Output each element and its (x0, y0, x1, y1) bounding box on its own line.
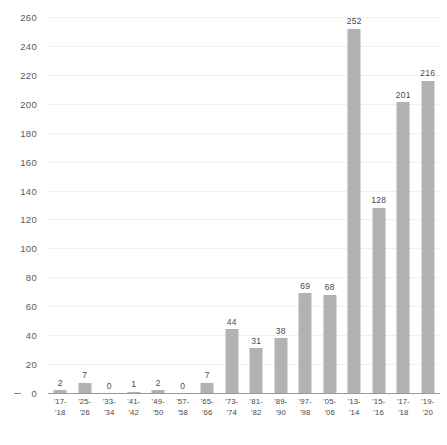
y-axis: 020406080100120140160180200220240260 (0, 0, 48, 445)
y-axis-tick-label: 0 (31, 388, 37, 399)
x-axis-tick-line-2: '74 (220, 407, 245, 418)
y-axis-tick-label: 40 (26, 330, 37, 341)
y-axis-tick-label: 220 (20, 69, 37, 80)
x-axis-tick-line-1: '15- (367, 396, 392, 407)
y-axis-tick-label: 240 (20, 40, 37, 51)
x-axis-tick-line-1: '05- (318, 396, 343, 407)
y-axis-tick-label: 20 (26, 359, 37, 370)
bar[interactable] (323, 295, 336, 393)
bar[interactable] (225, 329, 238, 393)
bar-value-label: 0 (107, 381, 112, 391)
bar-group: 2 (146, 17, 171, 393)
x-axis-tick-line-1: '25- (73, 396, 98, 407)
bar-group: 0 (97, 17, 122, 393)
bar-group: 7 (73, 17, 98, 393)
x-axis-tick-line-2: '58 (171, 407, 196, 418)
bar-group: 0 (171, 17, 196, 393)
bar-value-label: 252 (347, 16, 362, 26)
y-axis-tick-label: 200 (20, 98, 37, 109)
bar[interactable] (421, 81, 434, 393)
x-axis-tick-line-2: '26 (73, 407, 98, 418)
bar-value-label: 44 (227, 317, 237, 327)
bar-group: 44 (220, 17, 245, 393)
x-axis-tick-line-1: '89- (269, 396, 294, 407)
x-axis-tick-label: '49-'50 (146, 396, 171, 418)
x-axis-tick-label: '73-'74 (220, 396, 245, 418)
x-axis-tick-label: '33-'34 (97, 396, 122, 418)
bar-value-label: 68 (325, 282, 335, 292)
x-axis-tick-label: '19-'20 (416, 396, 441, 418)
bar-group: 201 (391, 17, 416, 393)
bar-value-label: 201 (396, 90, 411, 100)
bar[interactable] (372, 208, 385, 393)
x-axis-tick-line-2: '34 (97, 407, 122, 418)
x-axis-tick-line-1: '41- (122, 396, 147, 407)
y-axis-tick-label: 260 (20, 12, 37, 23)
x-axis-tick-line-2: '18 (48, 407, 73, 418)
bar-value-label: 7 (205, 370, 210, 380)
x-axis-tick-line-1: '19- (416, 396, 441, 407)
x-axis-tick-label: '15-'16 (367, 396, 392, 418)
x-axis-tick-label: '97-'98 (293, 396, 318, 418)
x-axis-tick-label: '57-'58 (171, 396, 196, 418)
x-axis-baseline (48, 393, 440, 394)
x-axis-tick-line-2: '14 (342, 407, 367, 418)
bar[interactable] (348, 29, 361, 393)
x-axis-tick-label: '17-'18 (391, 396, 416, 418)
x-axis-tick-line-2: '66 (195, 407, 220, 418)
bar[interactable] (299, 293, 312, 393)
x-axis-tick-label: '81-'82 (244, 396, 269, 418)
bar[interactable] (78, 383, 91, 393)
bar[interactable] (250, 348, 263, 393)
x-axis: '17-'18'25-'26'33-'34'41-'42'49-'50'57-'… (48, 396, 440, 436)
x-axis-tick-line-1: '17- (391, 396, 416, 407)
bar-value-label: 1 (131, 379, 136, 389)
bar-chart: 020406080100120140160180200220240260 270… (0, 0, 447, 445)
x-axis-tick-line-1: '17- (48, 396, 73, 407)
bar-group: 68 (318, 17, 343, 393)
y-axis-tick-label: 100 (20, 243, 37, 254)
x-axis-tick-line-1: '97- (293, 396, 318, 407)
x-axis-tick-line-2: '06 (318, 407, 343, 418)
x-axis-tick-line-2: '98 (293, 407, 318, 418)
x-axis-tick-label: '65-'66 (195, 396, 220, 418)
x-axis-tick-line-2: '90 (269, 407, 294, 418)
x-axis-tick-line-1: '65- (195, 396, 220, 407)
x-axis-tick-line-1: '57- (171, 396, 196, 407)
y-axis-tick-label: 120 (20, 214, 37, 225)
bar-value-label: 2 (156, 378, 161, 388)
x-axis-tick-label: '17-'18 (48, 396, 73, 418)
bar-group: 252 (342, 17, 367, 393)
bar-value-label: 7 (82, 370, 87, 380)
y-axis-tick-label: 160 (20, 156, 37, 167)
x-axis-tick-line-2: '18 (391, 407, 416, 418)
x-axis-tick-label: '05-'06 (318, 396, 343, 418)
x-axis-tick-line-1: '33- (97, 396, 122, 407)
x-axis-tick-line-1: '73- (220, 396, 245, 407)
y-axis-tick-label: 60 (26, 301, 37, 312)
bar-value-label: 216 (420, 68, 435, 78)
y-axis-tick-label: 180 (20, 127, 37, 138)
x-axis-tick-line-2: '50 (146, 407, 171, 418)
x-axis-tick-label: '41-'42 (122, 396, 147, 418)
bar-group: 69 (293, 17, 318, 393)
bar[interactable] (397, 102, 410, 393)
bar-value-label: 31 (251, 336, 261, 346)
bar[interactable] (201, 383, 214, 393)
x-axis-tick-line-1: '49- (146, 396, 171, 407)
x-axis-tick-line-2: '42 (122, 407, 147, 418)
x-axis-tick-line-1: '13- (342, 396, 367, 407)
x-axis-tick-line-2: '16 (367, 407, 392, 418)
bar-group: 128 (367, 17, 392, 393)
bar-group: 2 (48, 17, 73, 393)
bar-group: 7 (195, 17, 220, 393)
bar-value-label: 2 (58, 378, 63, 388)
y-axis-tick-label: 140 (20, 185, 37, 196)
x-axis-tick-line-1: '81- (244, 396, 269, 407)
bar[interactable] (274, 338, 287, 393)
bar-value-label: 0 (180, 381, 185, 391)
bar-value-label: 128 (371, 195, 386, 205)
bar-group: 31 (244, 17, 269, 393)
x-axis-tick-label: '13-'14 (342, 396, 367, 418)
bar-group: 38 (269, 17, 294, 393)
